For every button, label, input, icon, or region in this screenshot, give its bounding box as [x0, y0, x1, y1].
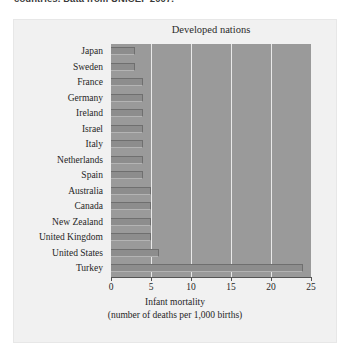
y-axis-label-united-states: United States — [52, 246, 103, 262]
bar-row — [111, 199, 311, 215]
x-tick-5 — [151, 277, 152, 281]
bar-row — [111, 60, 311, 76]
y-axis-label-spain: Spain — [81, 168, 103, 184]
bar-ireland — [111, 109, 143, 117]
bar-canada — [111, 202, 151, 210]
y-axis-label-japan: Japan — [81, 44, 103, 60]
bar-new-zealand — [111, 218, 151, 226]
bar-row — [111, 215, 311, 231]
y-axis-label-ireland: Ireland — [76, 106, 103, 122]
x-tick-label-10: 10 — [176, 282, 206, 292]
bar-row — [111, 137, 311, 153]
x-axis-caption-line1: Infant mortality — [14, 296, 336, 309]
bar-germany — [111, 94, 143, 102]
bar-netherlands — [111, 156, 143, 164]
bar-sweden — [111, 63, 135, 71]
figure-caption-text: countries. Data from UNICEF 2007. — [14, 0, 334, 4]
y-axis-label-australia: Australia — [68, 184, 103, 200]
bar-row — [111, 184, 311, 200]
bar-row — [111, 246, 311, 262]
y-axis-labels: JapanSwedenFranceGermanyIrelandIsraelIta… — [14, 44, 107, 277]
y-axis-label-netherlands: Netherlands — [57, 153, 103, 169]
bar-united-states — [111, 249, 159, 257]
x-tick-label-0: 0 — [96, 282, 126, 292]
y-axis-label-italy: Italy — [86, 137, 103, 153]
bar-turkey — [111, 264, 303, 272]
y-axis-label-israel: Israel — [82, 122, 103, 138]
bar-israel — [111, 125, 143, 133]
bar-row — [111, 153, 311, 169]
x-tick-15 — [231, 277, 232, 281]
bar-row — [111, 75, 311, 91]
bar-row — [111, 91, 311, 107]
x-tick-25 — [311, 277, 312, 281]
y-axis-label-united-kingdom: United Kingdom — [39, 230, 103, 246]
x-axis-caption: Infant mortality (number of deaths per 1… — [14, 296, 336, 321]
bar-australia — [111, 187, 151, 195]
y-axis-label-sweden: Sweden — [73, 60, 103, 76]
bar-japan — [111, 47, 135, 55]
x-tick-0 — [111, 277, 112, 281]
figure-panel: Developed nations JapanSwedenFranceGerma… — [14, 20, 336, 342]
bar-france — [111, 78, 143, 86]
x-tick-label-5: 5 — [136, 282, 166, 292]
x-tick-label-15: 15 — [216, 282, 246, 292]
bar-row — [111, 122, 311, 138]
bar-united-kingdom — [111, 233, 151, 241]
x-axis-line — [111, 277, 312, 278]
y-axis-label-turkey: Turkey — [76, 261, 103, 277]
chart-title: Developed nations — [111, 24, 311, 35]
x-tick-label-20: 20 — [256, 282, 286, 292]
plot-area — [111, 44, 311, 277]
bar-italy — [111, 140, 143, 148]
x-axis-caption-line2: (number of deaths per 1,000 births) — [14, 309, 336, 322]
bar-row — [111, 261, 311, 277]
x-tick-label-25: 25 — [296, 282, 326, 292]
y-axis-label-germany: Germany — [68, 91, 103, 107]
bar-spain — [111, 171, 143, 179]
caption-strip: countries. Data from UNICEF 2007. — [0, 0, 348, 14]
y-axis-label-new-zealand: New Zealand — [52, 215, 103, 231]
y-axis-label-canada: Canada — [75, 199, 104, 215]
bar-row — [111, 230, 311, 246]
bar-row — [111, 168, 311, 184]
x-tick-20 — [271, 277, 272, 281]
bar-row — [111, 44, 311, 60]
bar-row — [111, 106, 311, 122]
y-axis-label-france: France — [77, 75, 103, 91]
x-tick-10 — [191, 277, 192, 281]
